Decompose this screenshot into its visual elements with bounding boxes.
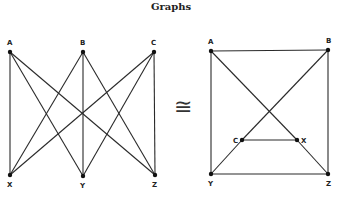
right-node-y [209, 172, 213, 176]
isomorphic-symbol: ≅ [174, 96, 192, 118]
left-node-z [153, 173, 157, 177]
left-graph: ABCXYZ [7, 39, 157, 190]
left-label-x: X [7, 181, 13, 189]
left-node-y [81, 174, 85, 178]
left-label-z: Z [152, 181, 157, 189]
right-label-z: Z [326, 180, 331, 188]
left-node-a [8, 50, 12, 54]
left-label-b: B [80, 39, 85, 47]
left-node-b [81, 50, 85, 54]
right-graph: ABCXYZ [207, 37, 331, 188]
right-node-c [240, 138, 244, 142]
left-edge-c-z [154, 52, 155, 175]
left-label-c: C [151, 39, 156, 47]
left-node-c [152, 50, 156, 54]
right-label-a: A [208, 38, 214, 46]
right-node-z [326, 172, 330, 176]
left-node-x [8, 173, 12, 177]
right-node-a [209, 49, 213, 53]
right-node-x [295, 138, 299, 142]
left-label-y: Y [79, 182, 86, 190]
right-edge-b-c [242, 50, 328, 140]
right-label-b: B [326, 37, 331, 45]
right-label-c: C [233, 137, 238, 145]
right-edge-a-b [211, 50, 328, 51]
right-label-x: X [301, 137, 307, 145]
right-edge-c-y [211, 140, 242, 174]
graph-canvas: ABCXYZ ABCXYZ [0, 0, 342, 205]
right-edge-x-z [297, 140, 328, 174]
left-label-a: A [7, 39, 13, 47]
figure: Graphs ABCXYZ ABCXYZ ≅ [0, 0, 342, 205]
right-label-y: Y [207, 180, 214, 188]
right-node-b [326, 48, 330, 52]
